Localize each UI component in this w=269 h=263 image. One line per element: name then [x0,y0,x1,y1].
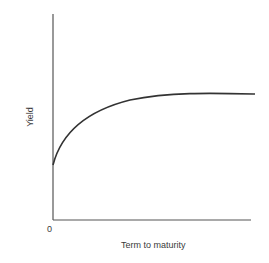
chart-plot [0,0,269,263]
yield-curve [53,93,255,165]
origin-label: 0 [47,224,52,234]
y-axis-label: Yield [25,107,35,127]
x-axis-label: Term to maturity [121,240,186,250]
